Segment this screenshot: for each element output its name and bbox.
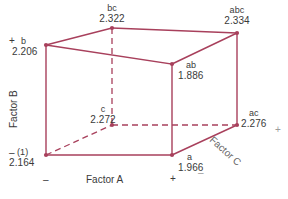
- vertex-dot-ac: [235, 123, 239, 127]
- vertex-dot-abc: [235, 31, 239, 35]
- vertex-code-ac: ac: [249, 108, 285, 118]
- vertex-code-c: c: [81, 104, 125, 114]
- vertex-label-ab: ab 1.886: [178, 60, 222, 81]
- vertex-label-bc: bc 2.322: [88, 3, 136, 24]
- vertex-code-ab: ab: [186, 60, 222, 70]
- vertex-code-one: (1): [17, 147, 51, 157]
- vertex-label-b: b 2.206: [12, 36, 52, 57]
- front-face-edges: [46, 45, 172, 155]
- factor-c-low-sign: –: [198, 168, 204, 178]
- vertex-label-one: (1) 2.164: [9, 147, 51, 168]
- vertex-code-abc: abc: [213, 5, 261, 15]
- edge-b-to-bc: [46, 28, 112, 45]
- vertex-value-c: 2.272: [81, 114, 125, 125]
- axis-title-factor-a: Factor A: [86, 174, 123, 185]
- factor-b-high-sign: +: [9, 36, 15, 46]
- vertex-code-b: b: [21, 36, 52, 46]
- factor-a-low-sign: –: [43, 175, 49, 185]
- vertex-label-abc: abc 2.334: [213, 5, 261, 26]
- factor-b-low-sign: –: [9, 148, 15, 158]
- vertex-dot-a: [170, 153, 174, 157]
- vertex-value-b: 2.206: [12, 46, 52, 57]
- vertex-dot-bc: [110, 26, 114, 30]
- vertex-value-one: 2.164: [9, 157, 51, 168]
- top-back-edge: [112, 28, 237, 33]
- vertex-value-abc: 2.334: [213, 15, 261, 26]
- cube-plot-figure: bc 2.322 abc 2.334 b 2.206 ab 1.886 c 2.…: [0, 0, 288, 199]
- vertex-value-ab: 1.886: [178, 70, 222, 81]
- hidden-edge-one-to-c: [46, 125, 112, 155]
- vertex-code-a: a: [187, 152, 222, 162]
- factor-c-high-sign: +: [275, 125, 281, 135]
- axis-title-factor-b: Factor B: [8, 90, 19, 128]
- vertex-dot-ab: [170, 62, 174, 66]
- vertex-label-c: c 2.272: [81, 104, 125, 125]
- vertex-code-bc: bc: [88, 3, 136, 13]
- vertex-value-bc: 2.322: [88, 13, 136, 24]
- factor-a-high-sign: +: [170, 174, 176, 184]
- cube-wireframe: [0, 0, 288, 199]
